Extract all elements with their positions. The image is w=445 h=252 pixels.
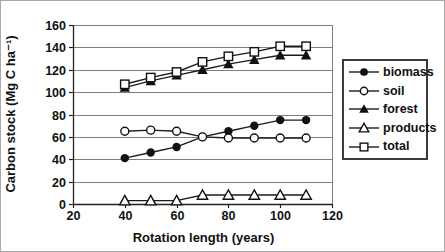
data-point-soil bbox=[173, 127, 181, 135]
open-square-icon bbox=[348, 140, 381, 154]
data-point-soil bbox=[147, 126, 155, 134]
x-tick-label: 20 bbox=[67, 209, 81, 223]
y-tick-label: 140 bbox=[45, 41, 66, 55]
data-point-soil bbox=[302, 134, 310, 142]
y-tick-label: 60 bbox=[52, 131, 66, 145]
data-point-soil bbox=[276, 134, 284, 142]
legend-item-total: total bbox=[348, 138, 424, 156]
legend-label: soil bbox=[383, 85, 405, 98]
legend-item-forest: forest bbox=[348, 100, 424, 118]
data-point-total bbox=[147, 73, 155, 81]
data-point-soil bbox=[224, 134, 232, 142]
y-tick-label: 20 bbox=[52, 176, 66, 190]
data-point-soil bbox=[199, 133, 207, 141]
legend-label: biomass bbox=[383, 66, 434, 79]
legend-item-biomass: biomass bbox=[348, 63, 424, 81]
x-tick-label: 40 bbox=[119, 209, 133, 223]
data-point-biomass bbox=[276, 116, 284, 124]
y-tick-label: 120 bbox=[45, 64, 66, 78]
legend-label: forest bbox=[383, 103, 418, 116]
legend-label: total bbox=[383, 140, 409, 153]
x-tick-label: 120 bbox=[322, 209, 343, 223]
x-tick-label: 100 bbox=[270, 209, 291, 223]
data-point-total bbox=[224, 52, 232, 60]
y-tick-label: 80 bbox=[52, 109, 66, 123]
x-axis-title: Rotation length (years) bbox=[133, 230, 275, 245]
data-point-total bbox=[276, 42, 284, 50]
data-point-total bbox=[121, 80, 129, 88]
y-tick-label: 100 bbox=[45, 86, 66, 100]
y-tick-label: 0 bbox=[59, 198, 66, 212]
open-circle-icon bbox=[348, 84, 381, 98]
filled-circle-icon bbox=[348, 65, 381, 79]
y-tick-label: 160 bbox=[45, 19, 66, 33]
data-point-total bbox=[250, 48, 258, 56]
data-point-total bbox=[198, 58, 206, 66]
data-point-soil bbox=[121, 127, 129, 135]
y-axis-title: Carbon stock (Mg C ha⁻¹) bbox=[3, 35, 18, 192]
data-point-biomass bbox=[172, 143, 180, 151]
data-point-biomass bbox=[250, 121, 258, 129]
filled-triangle-icon bbox=[348, 102, 381, 116]
data-point-total bbox=[172, 68, 180, 76]
y-tick-label: 40 bbox=[52, 153, 66, 167]
carbon-stock-line-chart: 02040608010012014016020406080100120Rotat… bbox=[0, 0, 445, 252]
data-point-soil bbox=[250, 134, 258, 142]
x-tick-label: 60 bbox=[171, 209, 185, 223]
open-triangle-icon bbox=[348, 121, 381, 135]
data-point-biomass bbox=[302, 116, 310, 124]
legend-item-products: products bbox=[348, 119, 424, 137]
legend-item-soil: soil bbox=[348, 82, 424, 100]
chart-legend: biomasssoilforestproductstotal bbox=[342, 59, 428, 160]
data-point-total bbox=[302, 42, 310, 50]
data-point-biomass bbox=[147, 148, 155, 156]
legend-label: products bbox=[383, 122, 436, 135]
data-point-biomass bbox=[121, 154, 129, 162]
x-tick-label: 80 bbox=[222, 209, 236, 223]
